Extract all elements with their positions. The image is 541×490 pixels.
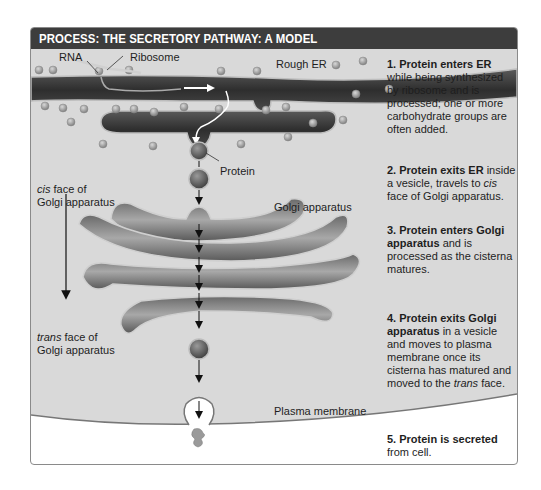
step-2: 2. Protein exits ER inside a vesicle, tr… <box>387 164 517 203</box>
step-4: 4. Protein exits Golgi apparatus in a ve… <box>387 312 517 390</box>
step-5: 5. Protein is secreted from cell. <box>387 433 517 459</box>
label-ribosome: Ribosome <box>130 51 180 64</box>
transport-vesicle-1 <box>189 169 209 189</box>
label-cis-face: cis face of Golgi apparatus <box>37 183 115 209</box>
label-protein: Protein <box>220 165 255 178</box>
label-rough-er: Rough ER <box>276 58 327 71</box>
label-plasma-membrane: Plasma membrane <box>274 405 366 418</box>
diagram-title: PROCESS: THE SECRETORY PATHWAY: A MODEL <box>39 31 317 46</box>
label-rna: RNA <box>59 51 82 64</box>
er-vesicle-bud <box>190 142 208 160</box>
secreted-protein <box>192 429 205 448</box>
diagram-frame: PROCESS: THE SECRETORY PATHWAY: A MODEL <box>30 27 518 465</box>
transport-vesicle-2 <box>189 339 209 359</box>
step-1: 1. Protein enters ER while being synthes… <box>387 58 517 136</box>
label-trans-face: trans face of Golgi apparatus <box>37 331 115 357</box>
label-golgi-apparatus: Golgi apparatus <box>274 201 352 214</box>
step-3: 3. Protein enters Golgi apparatus and is… <box>387 224 517 276</box>
header-bar: PROCESS: THE SECRETORY PATHWAY: A MODEL <box>31 28 517 49</box>
